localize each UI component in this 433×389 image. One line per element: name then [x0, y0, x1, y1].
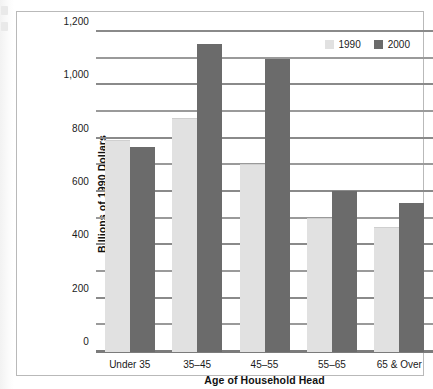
legend-label-2000: 2000: [388, 39, 410, 50]
bar-group-55-65: 55–65: [298, 32, 365, 352]
y-tick-label-200: 200: [72, 282, 89, 293]
bar-2000-4[interactable]: [399, 203, 424, 352]
scan-speck-lower: [1, 22, 8, 31]
bar-1990-1[interactable]: [172, 118, 197, 352]
bar-group-45-55: 45–55: [231, 32, 298, 352]
bar-1990-2[interactable]: [240, 164, 265, 352]
bar-groups: Under 3535–4545–5555–6565 & Over: [96, 32, 433, 352]
legend-entry-2000[interactable]: 2000: [374, 39, 410, 50]
bar-2000-0[interactable]: [130, 147, 155, 352]
y-tick-label-600: 600: [72, 176, 89, 187]
chart-frame: Billions of 1990 Dollars 1990 2000 02004…: [16, 11, 424, 376]
x-tick-label-3: 55–65: [298, 359, 365, 370]
x-tick-label-4: 65 & Over: [366, 359, 433, 370]
y-tick-label-1200: 1,200: [63, 16, 89, 27]
bar-group-35-45: 35–45: [163, 32, 230, 352]
bar-2000-3[interactable]: [332, 191, 357, 352]
x-axis-title: Age of Household Head: [96, 374, 433, 386]
legend-label-1990: 1990: [339, 39, 361, 50]
bar-1990-3[interactable]: [307, 218, 332, 352]
y-tick-label-0: 0: [83, 336, 89, 347]
plot-area: 02004006008001,0001,200 Under 3535–4545–…: [96, 32, 433, 352]
bar-1990-4[interactable]: [374, 227, 399, 352]
legend-entry-1990[interactable]: 1990: [325, 39, 361, 50]
x-tick-label-0: Under 35: [96, 359, 163, 370]
bar-group-65-over: 65 & Over: [366, 32, 433, 352]
x-tick-label-2: 45–55: [231, 359, 298, 370]
legend-swatch-1990-icon: [325, 40, 334, 49]
bar-2000-1[interactable]: [197, 44, 222, 352]
scan-edge-artifact: [0, 0, 14, 389]
x-tick-label-1: 35–45: [163, 359, 230, 370]
scan-speck-upper: [1, 6, 8, 15]
chart-legend: 1990 2000: [321, 38, 412, 51]
bar-group-under-35: Under 35: [96, 32, 163, 352]
bar-2000-2[interactable]: [265, 59, 290, 352]
bar-1990-0[interactable]: [105, 140, 130, 352]
y-tick-label-1000: 1,000: [63, 69, 89, 80]
y-tick-label-800: 800: [72, 122, 89, 133]
y-tick-label-400: 400: [72, 229, 89, 240]
legend-swatch-2000-icon: [374, 40, 383, 49]
